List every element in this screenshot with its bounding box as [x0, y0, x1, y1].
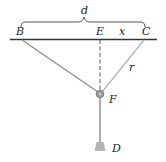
label-r: r: [129, 61, 135, 74]
label-F: F: [108, 93, 117, 106]
cable-BF: [22, 40, 98, 92]
label-B: B: [15, 25, 24, 38]
pulley-hub: [99, 93, 101, 95]
label-x: x: [119, 25, 126, 38]
cable-CF: [102, 40, 144, 92]
label-E: E: [95, 25, 104, 38]
label-d: d: [81, 4, 88, 17]
weight-D: [95, 142, 106, 151]
label-C: C: [142, 25, 151, 38]
distance-brace: [21, 17, 145, 27]
label-D: D: [111, 142, 121, 155]
pulley-geometry-diagram: d B E x C r F D: [0, 0, 166, 162]
